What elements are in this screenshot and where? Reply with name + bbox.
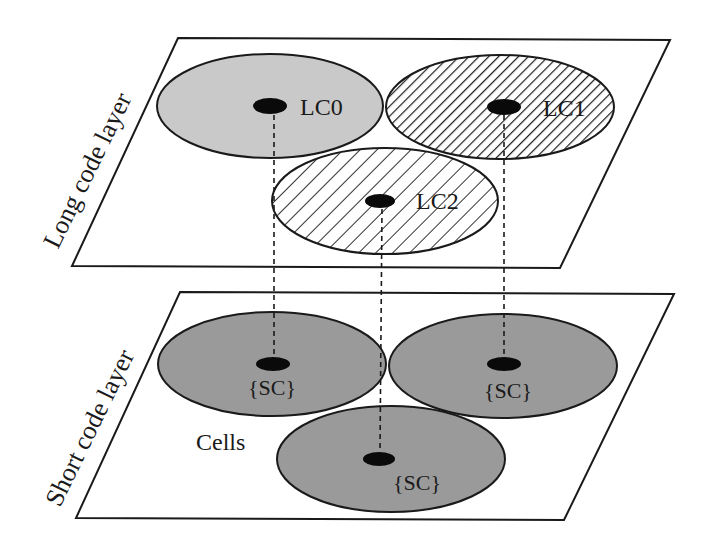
sc-right-center-dot bbox=[487, 357, 521, 371]
sc-bottom-label: {SC} bbox=[393, 470, 441, 495]
sc-left-center-dot bbox=[256, 357, 290, 371]
lc2-center-dot bbox=[365, 194, 395, 208]
lc1-label: LC1 bbox=[543, 95, 586, 121]
long-code-layer: LC0 LC1 LC2 Long code layer bbox=[37, 38, 670, 268]
lc0-label: LC0 bbox=[300, 94, 343, 120]
sc-left-label: {SC} bbox=[248, 375, 296, 400]
sc-right-label: {SC} bbox=[484, 378, 532, 403]
sc-bottom-center-dot bbox=[363, 452, 395, 466]
lc2-label: LC2 bbox=[416, 188, 459, 214]
lc1-center-dot bbox=[487, 99, 521, 115]
short-code-layer: {SC} {SC} {SC} Cells Short code layer bbox=[39, 292, 674, 520]
two-layer-diagram: LC0 LC1 LC2 Long code layer {SC} {SC} {S… bbox=[0, 0, 708, 548]
cells-label: Cells bbox=[196, 429, 245, 455]
lc0-center-dot bbox=[253, 98, 287, 114]
